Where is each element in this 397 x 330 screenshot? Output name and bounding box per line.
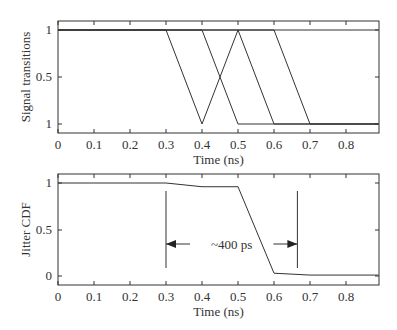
x-tick-label: 0.2	[122, 137, 138, 152]
x-tick-label: 0.3	[158, 137, 174, 152]
x-tick-label: 0.4	[194, 137, 211, 152]
x-tick-label: 0.8	[338, 289, 354, 304]
x-tick-label: 0.7	[302, 289, 319, 304]
series-line	[58, 30, 378, 124]
x-tick-label: 0	[55, 289, 62, 304]
series-line	[58, 30, 378, 124]
y-axis-label: Jitter CDF	[18, 202, 33, 257]
x-tick-label: 0.8	[338, 137, 354, 152]
x-tick-label: 0.7	[302, 137, 319, 152]
x-tick-label: 0.3	[158, 289, 174, 304]
series-line	[58, 30, 378, 124]
x-tick-label: 0	[55, 137, 62, 152]
plot-frame	[58, 21, 379, 133]
y-axis-label: Signal transitions	[18, 32, 33, 123]
y-tick-label: 1	[46, 116, 53, 131]
plot-frame	[58, 174, 379, 285]
y-tick-label: 0	[46, 268, 53, 283]
x-tick-label: 0.6	[266, 289, 283, 304]
x-tick-label: 0.2	[122, 289, 138, 304]
x-tick-label: 0.5	[230, 289, 246, 304]
y-tick-label: 1	[46, 22, 53, 37]
x-axis-label: Time (ns)	[193, 152, 243, 167]
x-tick-label: 0.1	[86, 289, 102, 304]
y-tick-label: 0.5	[36, 69, 52, 84]
y-tick-label: 1	[46, 175, 53, 190]
x-tick-label: 0.4	[194, 289, 211, 304]
figure: 00.10.20.30.40.50.60.70.810.51Time (ns)S…	[0, 0, 397, 330]
x-tick-label: 0.6	[266, 137, 283, 152]
series-line	[58, 183, 378, 275]
series-line	[58, 30, 378, 124]
x-tick-label: 0.5	[230, 137, 246, 152]
span-annotation-text: ~400 ps	[211, 237, 252, 252]
x-tick-label: 0.1	[86, 137, 102, 152]
x-axis-label: Time (ns)	[193, 304, 243, 319]
y-tick-label: 0.5	[36, 222, 52, 237]
